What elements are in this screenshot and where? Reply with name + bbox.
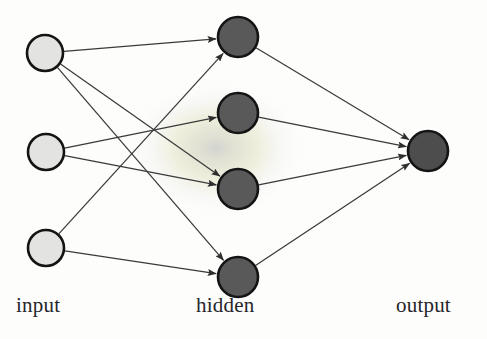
layer-label-output: output (396, 293, 451, 318)
background-smudge (120, 76, 312, 220)
node-group-output (408, 131, 448, 171)
hidden-node-3[interactable] (218, 169, 258, 209)
edge-i1-h1 (64, 39, 216, 52)
hidden-node-4[interactable] (218, 257, 258, 297)
edge-i3-h4 (65, 251, 216, 274)
output-node-1[interactable] (408, 131, 448, 171)
hidden-node-2[interactable] (218, 93, 258, 133)
input-node-3[interactable] (28, 230, 64, 266)
node-group-input (27, 35, 64, 266)
hidden-node-1[interactable] (218, 17, 258, 57)
neural-network-diagram: input hidden output (0, 0, 487, 339)
input-node-2[interactable] (28, 134, 64, 170)
layer-label-hidden: hidden (196, 293, 254, 318)
layer-label-input: input (16, 293, 60, 318)
input-node-1[interactable] (27, 35, 63, 71)
network-graph-canvas (0, 0, 487, 339)
